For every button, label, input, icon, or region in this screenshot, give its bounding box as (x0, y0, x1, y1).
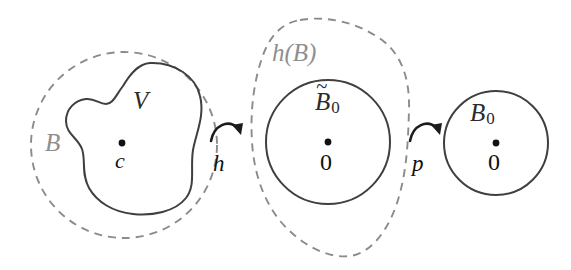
label-point-zero-right: 0 (488, 150, 500, 174)
label-set-hb: h(B) (272, 40, 316, 65)
label-set-b-0-base: B (470, 99, 485, 126)
label-map-h: h (213, 152, 225, 175)
label-map-p: p (412, 152, 424, 175)
point-c-dot (119, 140, 126, 147)
label-set-b-tilde-0-subscript: 0 (331, 98, 340, 117)
point-zero-middle-dot (325, 139, 332, 146)
label-set-b-0: B0 (470, 100, 494, 125)
arrow-h-head (232, 123, 243, 135)
tilde-accent-icon: ~ (316, 76, 327, 97)
label-set-v: V (133, 88, 148, 113)
set-v-blob (66, 63, 201, 215)
label-set-b-tilde-0: ~B0 (315, 89, 339, 114)
arrow-p (410, 123, 442, 141)
label-set-b-0-subscript: 0 (486, 109, 495, 128)
arrow-p-head (431, 123, 442, 135)
label-set-b: B (45, 130, 60, 155)
point-zero-right-dot (493, 140, 500, 147)
label-point-zero-middle: 0 (320, 150, 332, 174)
label-point-c: c (115, 150, 125, 172)
math-diagram: B V c h h(B) ~B0 0 p B0 0 (0, 0, 571, 270)
